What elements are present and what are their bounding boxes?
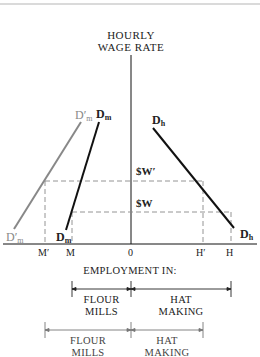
- tick-m: M: [66, 247, 75, 258]
- label-dh-bottom: Dh: [240, 227, 253, 242]
- curve-dh: [153, 128, 234, 228]
- label-dm-prime-bottom: D′m: [6, 230, 24, 245]
- y-axis-title-line1: HOURLY: [80, 29, 182, 41]
- x-axis-title: EMPLOYMENT IN:: [70, 265, 190, 277]
- tick-m-prime: M′: [38, 247, 49, 258]
- tick-h-prime: H′: [196, 247, 205, 258]
- y-axis-title: HOURLY WAGE RATE: [80, 29, 182, 53]
- bracket-2-hat-caption: HAT MAKING: [131, 335, 203, 357]
- wage-low-label: $W: [136, 197, 153, 209]
- wage-high-label: $W′: [136, 165, 156, 177]
- bracket-2-flour-caption: FLOUR MILLS: [45, 335, 131, 357]
- tick-h: H: [226, 247, 233, 258]
- label-dm-prime: D′m: [75, 108, 93, 123]
- y-axis-title-line2: WAGE RATE: [80, 41, 182, 53]
- label-dm: Dm: [96, 107, 111, 122]
- bracket-1-flour-caption: FLOUR MILLS: [72, 294, 131, 318]
- tick-origin: 0: [128, 247, 133, 258]
- label-dm-bottom: Dm: [56, 230, 71, 245]
- bracket-1-hat-caption: HAT MAKING: [131, 294, 231, 318]
- label-dh: Dh: [152, 113, 165, 128]
